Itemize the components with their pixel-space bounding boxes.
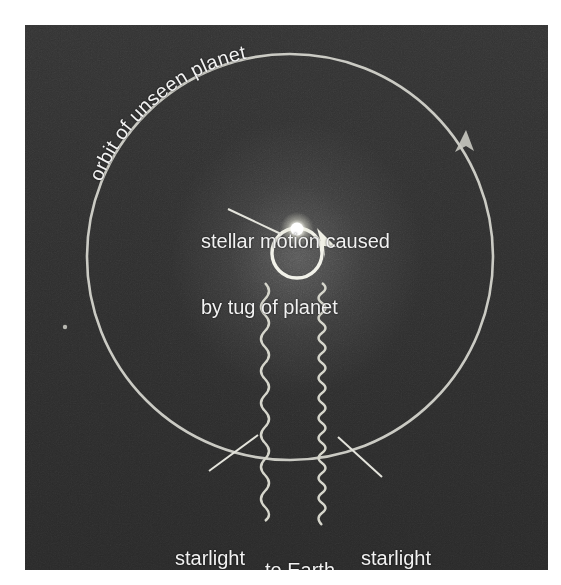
- diagram-artwork: orbit of unseen planet: [25, 25, 548, 570]
- orbit-label-curved: orbit of unseen planet: [85, 41, 249, 184]
- leader-line-redshift: [209, 435, 258, 471]
- leader-line-stellar-motion: [228, 209, 281, 234]
- figure-root: orbit of unseen planet stellar mot: [0, 0, 561, 585]
- wave-redshifted: [261, 283, 269, 521]
- wave-blueshifted: [319, 283, 326, 525]
- star-core: [291, 223, 304, 236]
- diagram-panel: orbit of unseen planet stellar mot: [25, 25, 548, 570]
- leader-line-blueshift: [338, 437, 382, 477]
- scan-speck-artifact: [63, 325, 67, 329]
